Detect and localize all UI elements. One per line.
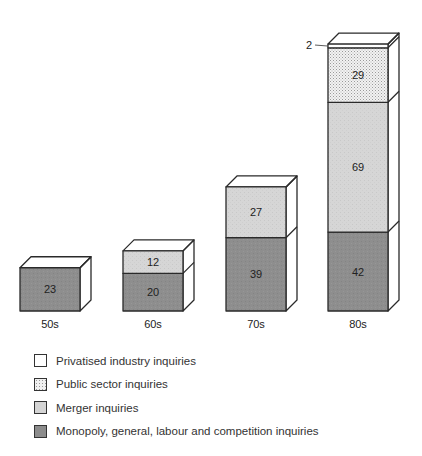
segment-value-label: 39	[250, 268, 262, 280]
segment-value-label: 69	[352, 161, 364, 173]
legend-label: Public sector inquiries	[56, 378, 168, 390]
stacked-3d-bar-chart: 2350s201260s392770s426929280s	[0, 0, 422, 345]
category-label: 60s	[144, 318, 162, 330]
segment-value-label: 27	[250, 206, 262, 218]
segment-value-label: 23	[44, 283, 56, 295]
swatch-public-sector-icon	[34, 378, 47, 391]
bar-side-face	[286, 176, 297, 311]
legend-item-merger: Merger inquiries	[34, 396, 319, 420]
bar-side-face	[183, 240, 194, 311]
legend-label: Monopoly, general, labour and competitio…	[56, 425, 319, 437]
bar-top-face	[20, 257, 91, 268]
bar-top-face	[123, 240, 194, 251]
annotation-label: 2	[306, 39, 312, 51]
legend-label: Privatised industry inquiries	[56, 355, 196, 367]
legend-item-privatised: Privatised industry inquiries	[34, 349, 319, 373]
annotation-leader-line	[315, 45, 328, 46]
legend-item-monopoly: Monopoly, general, labour and competitio…	[34, 420, 319, 444]
legend-label: Merger inquiries	[56, 402, 138, 414]
swatch-privatised-icon	[34, 354, 47, 367]
segment-privatised	[328, 44, 388, 48]
legend-item-public-sector: Public sector inquiries	[34, 373, 319, 397]
bar-70s	[226, 176, 297, 311]
segment-value-label: 42	[352, 266, 364, 278]
legend: Privatised industry inquiries Public sec…	[34, 349, 319, 443]
segment-value-label: 20	[147, 286, 159, 298]
category-label: 70s	[247, 318, 265, 330]
segment-value-label: 12	[147, 256, 159, 268]
bar-top-face	[328, 33, 399, 44]
category-label: 80s	[349, 318, 367, 330]
segment-value-label: 29	[352, 69, 364, 81]
bar-side-face	[388, 33, 399, 311]
category-label: 50s	[41, 318, 59, 330]
bar-top-face	[226, 176, 297, 187]
swatch-merger-icon	[34, 401, 47, 414]
bar-60s	[123, 240, 194, 311]
swatch-monopoly-icon	[34, 425, 47, 438]
